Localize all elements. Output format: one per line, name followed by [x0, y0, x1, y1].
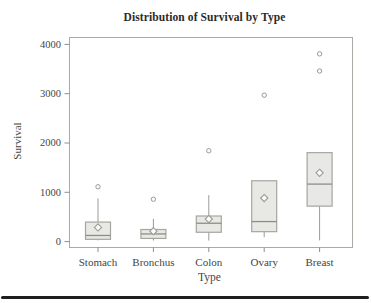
boxplot-plot-area: 01000200030004000StomachBronchusColonOva… — [0, 0, 371, 303]
outlier-point — [317, 52, 321, 56]
y-tick-label: 3000 — [40, 88, 61, 99]
box — [252, 181, 277, 232]
chart-canvas: Distribution of Survival by Type Surviva… — [0, 0, 371, 303]
outlier-point — [96, 185, 100, 189]
outlier-point — [207, 149, 211, 153]
box — [307, 153, 332, 206]
x-tick-label: Stomach — [79, 256, 118, 268]
outlier-point — [151, 197, 155, 201]
y-tick-label: 1000 — [40, 187, 61, 198]
y-tick-label: 4000 — [40, 39, 61, 50]
outlier-point — [262, 93, 266, 97]
x-tick-label: Breast — [306, 256, 334, 268]
x-tick-label: Bronchus — [132, 256, 174, 268]
y-tick-label: 2000 — [40, 137, 61, 148]
y-tick-label: 0 — [56, 236, 61, 247]
bottom-rule — [1, 296, 369, 299]
x-tick-label: Colon — [195, 256, 222, 268]
x-tick-label: Ovary — [250, 256, 278, 268]
outlier-point — [317, 69, 321, 73]
